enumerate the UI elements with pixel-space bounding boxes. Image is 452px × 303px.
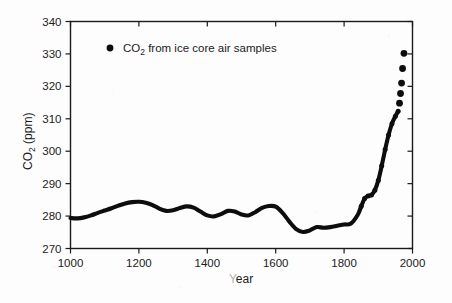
x-axis-title: Year (229, 272, 253, 286)
svg-text:CO2 from ice core air samples: CO2 from ice core air samples (123, 42, 277, 57)
y-axis-title-lead: CO (21, 152, 35, 170)
data-point-marker (393, 114, 398, 119)
x-tick-label: 2000 (400, 257, 426, 269)
x-axis-tick-labels: 100012001400160018002000 (58, 257, 426, 269)
data-point-marker (372, 188, 377, 193)
y-tick-label: 330 (42, 48, 61, 60)
legend-marker-icon (107, 45, 114, 52)
data-line (71, 111, 399, 232)
data-point-marker (386, 133, 391, 138)
series-ice-core-curve (71, 109, 401, 232)
legend-label-tail: from ice core air samples (145, 42, 277, 54)
y-tick-label: 300 (42, 145, 61, 157)
x-axis-ticks (71, 22, 413, 254)
data-point-marker (376, 178, 381, 183)
legend: CO2 from ice core air samples (107, 42, 277, 57)
data-point-marker (383, 147, 388, 152)
y-tick-label: 280 (42, 210, 61, 222)
y-tick-label: 270 (42, 243, 61, 255)
x-tick-label: 1400 (195, 257, 221, 269)
chart-figure: 270280290300310320330340 100012001400160… (0, 0, 452, 303)
data-series-layer (71, 50, 408, 232)
data-point-marker (397, 90, 404, 97)
co2-ice-core-line-chart: 270280290300310320330340 100012001400160… (0, 0, 452, 303)
data-point-marker (396, 109, 401, 114)
y-tick-label: 310 (42, 113, 61, 125)
svg-text:Year: Year (229, 272, 253, 286)
x-tick-label: 1800 (331, 257, 357, 269)
y-axis-title: CO2 (ppm) (21, 113, 37, 170)
data-point-marker (399, 65, 406, 72)
y-tick-label: 340 (42, 16, 61, 28)
series-modern-samples (396, 50, 407, 107)
x-tick-label: 1600 (263, 257, 289, 269)
data-point-marker (369, 192, 374, 197)
x-axis-title-rest: ear (236, 272, 253, 286)
data-point-marker (359, 204, 364, 209)
data-point-marker (401, 50, 408, 57)
data-point-marker (389, 121, 394, 126)
y-axis-title-tail: (ppm) (21, 113, 35, 148)
data-point-marker (396, 100, 403, 107)
y-axis-tick-labels: 270280290300310320330340 (42, 16, 61, 255)
y-tick-label: 320 (42, 80, 61, 92)
data-point-marker (398, 80, 405, 87)
legend-label-lead: CO (123, 42, 140, 54)
svg-text:CO2 (ppm): CO2 (ppm) (21, 113, 37, 170)
x-tick-label: 1000 (58, 257, 84, 269)
x-tick-label: 1200 (126, 257, 152, 269)
data-point-marker (379, 163, 384, 168)
y-tick-label: 290 (42, 178, 61, 190)
